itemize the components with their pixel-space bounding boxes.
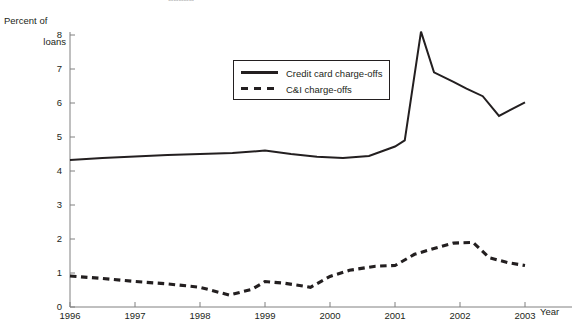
- legend-item-ci: C&I charge-offs: [241, 81, 352, 97]
- plot-area: [0, 0, 576, 324]
- legend-label-credit-card: Credit card charge-offs: [286, 68, 382, 79]
- chart-figure: aaaaa Percent of loans Year 012345678 19…: [0, 0, 576, 324]
- series-line-1: [70, 242, 525, 295]
- chart-legend: Credit card charge-offs C&I charge-offs: [233, 60, 390, 100]
- dashed-line-swatch: [241, 83, 278, 95]
- solid-line-swatch: [241, 67, 278, 79]
- legend-item-credit-card: Credit card charge-offs: [241, 65, 382, 81]
- legend-label-ci: C&I charge-offs: [286, 84, 352, 95]
